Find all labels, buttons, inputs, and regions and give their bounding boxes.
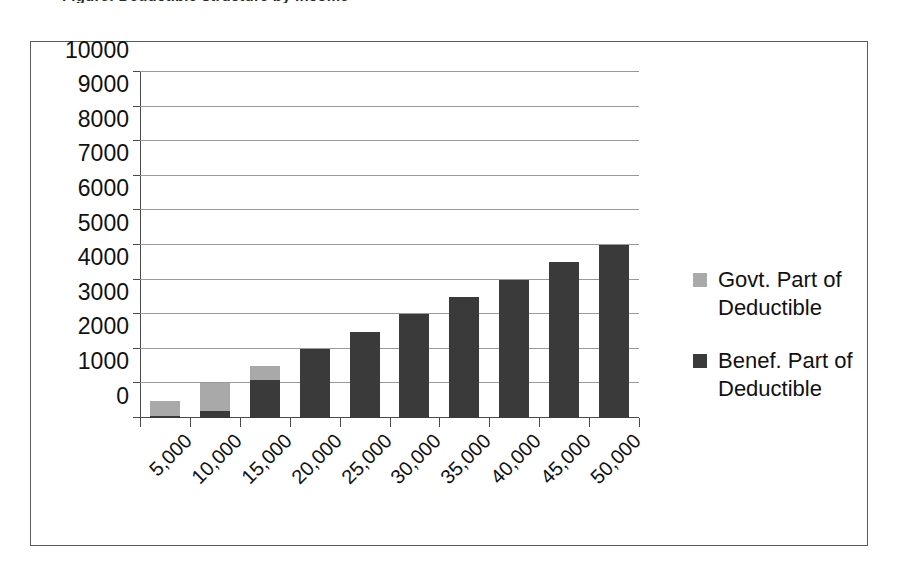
x-axis-tick	[439, 418, 440, 427]
gridline	[140, 140, 639, 141]
gridline	[140, 244, 639, 245]
gridline	[140, 71, 639, 72]
bar-segment-govt	[250, 366, 280, 380]
x-axis-tick	[589, 418, 590, 427]
x-axis-tick	[340, 418, 341, 427]
cut-off-caption: Figure: Deductible structure by income	[62, 0, 622, 3]
y-axis-label: 1000	[78, 349, 129, 372]
bar-segment-govt	[150, 401, 180, 417]
bar-segment-benef	[499, 280, 529, 418]
y-axis-label: 2000	[78, 315, 129, 338]
y-axis-tick	[133, 313, 140, 314]
bar-segment-benef	[549, 262, 579, 418]
y-axis-tick	[133, 106, 140, 107]
x-axis-tick	[190, 418, 191, 427]
bar-segment-benef	[250, 380, 280, 418]
gridline	[140, 209, 639, 210]
y-axis-label: 8000	[78, 107, 129, 130]
x-axis-tick	[390, 418, 391, 427]
bar-segment-benef	[300, 349, 330, 418]
x-axis-label: 35,000	[437, 430, 494, 487]
gridline	[140, 106, 639, 107]
y-axis-tick	[133, 382, 140, 383]
y-axis-tick	[133, 71, 140, 72]
legend-entry[interactable]: Benef. Part of Deductible	[693, 347, 883, 402]
y-axis-tick	[133, 279, 140, 280]
bar-stack[interactable]	[300, 349, 330, 418]
chart-frame: 0100020003000400050006000700080009000100…	[30, 41, 868, 546]
legend-swatch-icon	[693, 354, 707, 368]
y-axis-tick	[133, 244, 140, 245]
bar-segment-benef	[599, 245, 629, 418]
legend-swatch-icon	[693, 273, 707, 287]
y-axis-tick	[133, 209, 140, 210]
gridline	[140, 175, 639, 176]
bar-stack[interactable]	[350, 332, 380, 419]
legend-label: Benef. Part of Deductible	[718, 347, 876, 402]
x-axis-label: 50,000	[587, 430, 644, 487]
y-axis-tick	[133, 348, 140, 349]
y-axis-label: 3000	[78, 280, 129, 303]
x-axis-tick	[240, 418, 241, 427]
y-axis-tick	[133, 417, 140, 418]
y-axis-label: 9000	[78, 73, 129, 96]
y-axis-label: 0	[116, 384, 129, 407]
x-axis-tick	[539, 418, 540, 427]
chart-legend: Govt. Part of DeductibleBenef. Part of D…	[693, 266, 883, 429]
x-axis-label: 15,000	[237, 430, 294, 487]
y-axis-label: 7000	[78, 142, 129, 165]
plot-area: 0100020003000400050006000700080009000100…	[140, 72, 639, 418]
bar-stack[interactable]	[200, 383, 230, 418]
bar-segment-benef	[150, 416, 180, 418]
legend-label: Govt. Part of Deductible	[718, 266, 876, 321]
x-axis-label: 20,000	[287, 430, 344, 487]
bar-segment-benef	[399, 314, 429, 418]
bar-segment-govt	[200, 383, 230, 411]
bar-segment-benef	[350, 332, 380, 419]
y-axis-label: 4000	[78, 246, 129, 269]
y-axis-label: 10000	[65, 38, 129, 61]
x-axis-tick	[140, 418, 141, 427]
bar-stack[interactable]	[250, 366, 280, 418]
bar-segment-benef	[200, 411, 230, 418]
bar-stack[interactable]	[399, 314, 429, 418]
y-axis-tick	[133, 140, 140, 141]
y-axis-line	[140, 72, 141, 418]
x-axis-tick	[290, 418, 291, 427]
x-axis-label: 25,000	[337, 430, 394, 487]
x-axis-label: 30,000	[387, 430, 444, 487]
bar-stack[interactable]	[449, 297, 479, 418]
bar-stack[interactable]	[499, 280, 529, 418]
bar-stack[interactable]	[150, 401, 180, 418]
x-axis-label: 45,000	[537, 430, 594, 487]
x-axis-label: 10,000	[188, 430, 245, 487]
x-axis-tick	[489, 418, 490, 427]
x-axis-tick	[639, 418, 640, 427]
legend-entry[interactable]: Govt. Part of Deductible	[693, 266, 883, 321]
y-axis-label: 5000	[78, 211, 129, 234]
y-axis-tick	[133, 175, 140, 176]
x-axis-label: 40,000	[487, 430, 544, 487]
bar-segment-benef	[449, 297, 479, 418]
bar-stack[interactable]	[599, 245, 629, 418]
y-axis-label: 6000	[78, 176, 129, 199]
bar-stack[interactable]	[549, 262, 579, 418]
